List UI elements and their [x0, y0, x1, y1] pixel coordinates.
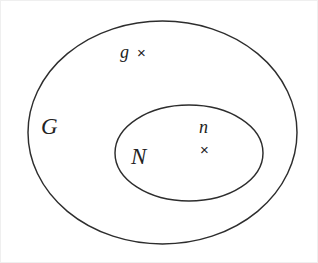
cross-marker-icon-n: ×: [200, 142, 209, 157]
outer-set-label-g: G: [41, 115, 58, 138]
inner-set-label-n: N: [131, 145, 146, 168]
element-label-n: n: [199, 118, 208, 136]
element-label-g: g: [120, 43, 129, 61]
set-diagram-canvas: G N g × n ×: [0, 0, 318, 263]
cross-marker-icon-g: ×: [137, 45, 146, 60]
